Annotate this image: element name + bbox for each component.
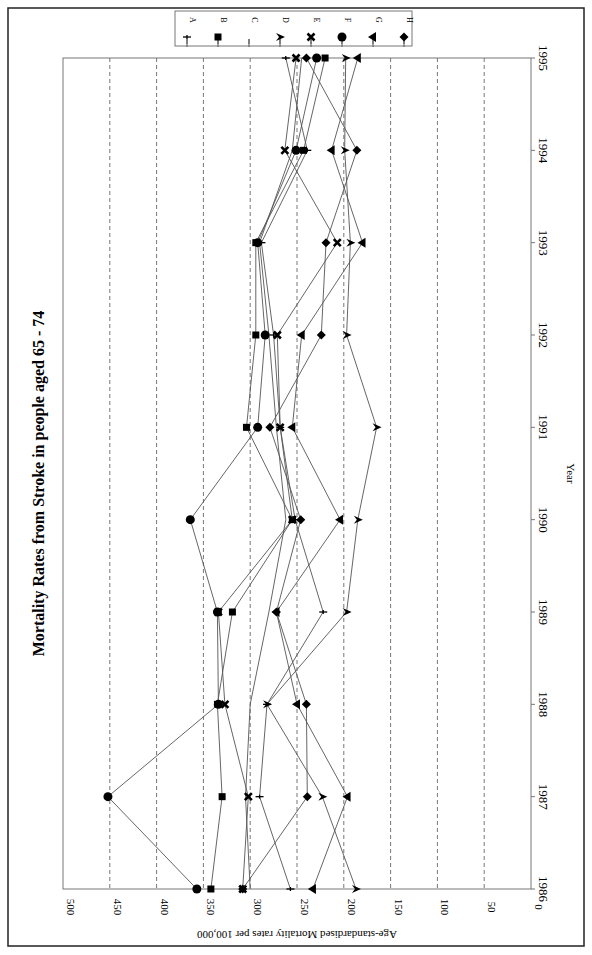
plot-area xyxy=(63,53,535,894)
chart-frame: ABCDEFGH 0501001502002503003504004505001… xyxy=(0,0,592,955)
marker-circle-icon xyxy=(103,792,112,801)
marker-square-icon xyxy=(322,55,329,62)
marker-circle-icon xyxy=(292,146,301,155)
marker-square-icon xyxy=(215,34,222,41)
y-tick-label: 0 xyxy=(533,904,545,910)
x-tick-label: 1988 xyxy=(536,691,551,717)
x-tick-label: 1986 xyxy=(536,876,551,903)
x-tick-label: 1987 xyxy=(536,784,551,811)
legend-label-G: G xyxy=(374,17,383,23)
marker-circle-icon xyxy=(213,608,222,617)
x-tick-label: 1993 xyxy=(536,230,551,256)
legend-label-H: H xyxy=(405,17,414,23)
x-tick-label: 1992 xyxy=(536,322,551,348)
y-tick-label: 300 xyxy=(252,899,264,916)
marker-square-icon xyxy=(252,332,259,339)
marker-circle-icon xyxy=(253,423,262,432)
marker-square-icon xyxy=(229,609,236,616)
marker-circle-icon xyxy=(214,700,223,709)
x-axis-title: Year xyxy=(565,463,577,484)
marker-square-icon xyxy=(243,424,250,431)
marker-square-icon xyxy=(300,147,307,154)
marker-circle-icon xyxy=(312,54,321,63)
legend-label-F: F xyxy=(343,18,352,23)
marker-square-icon xyxy=(207,886,214,893)
y-tick-label: 50 xyxy=(486,902,498,914)
marker-circle-icon xyxy=(192,885,201,894)
legend-label-A: A xyxy=(188,17,197,23)
y-tick-label: 400 xyxy=(159,899,171,916)
y-tick-label: 150 xyxy=(393,899,405,916)
y-tick-label: 450 xyxy=(112,899,124,916)
legend: ABCDEFGH xyxy=(175,11,414,47)
x-tick-label: 1991 xyxy=(536,414,551,440)
x-tick-label: 1989 xyxy=(536,599,551,625)
line-chart: ABCDEFGH 0501001502002503003504004505001… xyxy=(0,0,592,955)
chart-title: Mortality Rates from Stroke in people ag… xyxy=(30,311,48,657)
legend-label-D: D xyxy=(281,17,290,23)
y-tick-label: 100 xyxy=(439,899,451,916)
x-tick-label: 1994 xyxy=(536,137,551,164)
legend-label-E: E xyxy=(312,18,321,23)
x-tick-label: 1995 xyxy=(536,45,551,71)
y-tick-label: 250 xyxy=(299,899,311,916)
marker-square-icon xyxy=(219,793,226,800)
x-tick-label: 1990 xyxy=(536,507,551,533)
marker-circle-icon xyxy=(186,515,195,524)
y-axis-title: Age-standardised Mortality rates per 100… xyxy=(196,929,397,941)
marker-circle-icon xyxy=(253,238,262,247)
y-tick-label: 350 xyxy=(205,899,217,916)
marker-circle-icon xyxy=(261,331,270,340)
legend-label-C: C xyxy=(250,17,259,22)
y-tick-label: 200 xyxy=(346,899,358,916)
y-tick-label: 500 xyxy=(65,899,77,916)
marker-circle-icon xyxy=(338,33,347,42)
legend-label-B: B xyxy=(219,17,228,22)
